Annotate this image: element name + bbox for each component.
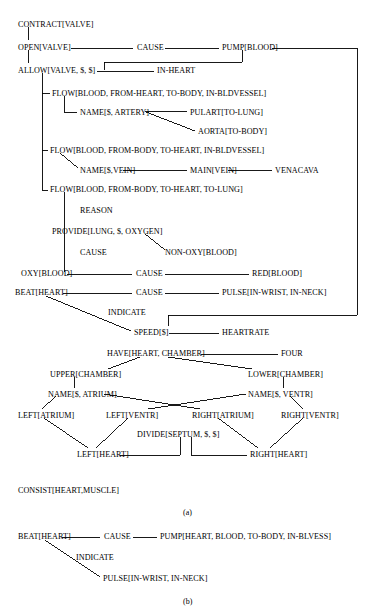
node-aorta: AORTA[TO-BODY] xyxy=(198,127,267,136)
node-lower-chamber: LOWER[CHAMBER] xyxy=(248,370,323,379)
node-provide-lung: PROVIDE[LUNG, $, OXYGEN] xyxy=(52,227,162,236)
node-b-cause: CAUSE xyxy=(104,532,131,541)
node-contract-valve: CONTRACT[VALVE] xyxy=(18,20,93,29)
node-b-beat-heart: BEAT[HEART] xyxy=(18,532,71,541)
node-divide-septum: DIVIDE[SEPTUM, $, $] xyxy=(137,430,219,439)
node-four: FOUR xyxy=(281,349,303,358)
node-pulart: PULART[TO-LUNG] xyxy=(190,108,263,117)
node-right-heart: RIGHT[HEART] xyxy=(250,450,307,459)
edge-leftatrium-leftheart xyxy=(44,418,88,448)
node-flow-heart-to-body: FLOW[BLOOD, FROM-HEART, TO-BODY, IN-BLDV… xyxy=(52,89,266,98)
node-name-ventr: NAME[$, VENTR] xyxy=(248,390,313,399)
caption-b: (b) xyxy=(183,597,192,606)
node-reason: REASON xyxy=(80,206,113,215)
edge-divide-rightheart xyxy=(191,437,247,455)
node-pump-blood: PUMP[BLOOD] xyxy=(222,43,278,52)
caption-a: (a) xyxy=(183,508,192,517)
node-pulse: PULSE[IN-WRIST, IN-NECK] xyxy=(222,288,326,297)
edge-leftventr-leftheart xyxy=(96,418,128,448)
node-cause-1: CAUSE xyxy=(137,43,164,52)
edge-pulart-nameartery xyxy=(145,111,187,112)
edge-provide-nonoxy xyxy=(145,234,165,250)
node-left-heart: LEFT[HEART] xyxy=(77,450,129,459)
edge-rightventr-rightheart xyxy=(270,418,303,448)
node-red-blood: RED[BLOOD] xyxy=(252,269,302,278)
node-speed: SPEED[$] xyxy=(134,328,169,337)
edge-flow2-namevein xyxy=(60,153,78,168)
node-beat-heart: BEAT[HEART] xyxy=(15,288,68,297)
node-b-indicate: INDICATE xyxy=(76,553,114,562)
node-name-artery: NAME[$, ARTERY] xyxy=(80,108,149,117)
node-name-vein: NAME[$,VEIN] xyxy=(80,166,135,175)
node-non-oxy-blood: NON-OXY[BLOOD] xyxy=(165,248,237,257)
edge-aorta-nameartery xyxy=(146,112,195,131)
node-left-atrium: LEFT[ATRIUM] xyxy=(18,411,74,420)
node-name-atrium: NAME[$, ATRIUM] xyxy=(48,390,117,399)
edge-have-lower xyxy=(168,357,252,369)
node-oxy-blood: OXY[BLOOD] xyxy=(21,269,72,278)
node-allow-valve: ALLOW[VALVE, $, $] xyxy=(18,66,95,75)
edge-divide-leftheart xyxy=(120,437,180,455)
node-indicate-a: INDICATE xyxy=(108,308,146,317)
node-cause-4: CAUSE xyxy=(136,288,163,297)
node-flow-body-to-heart-lung: FLOW[BLOOD, FROM-BODY, TO-HEART, TO-LUNG… xyxy=(50,185,243,194)
node-right-atrium: RIGHT[ATRIUM] xyxy=(192,411,254,420)
node-flow-body-to-heart-bldvessel: FLOW[BLOOD, FROM-BODY, TO-HEART, IN-BLDV… xyxy=(50,146,264,155)
node-consist-heart: CONSIST[HEART,MUSCLE] xyxy=(18,486,119,495)
edge-have-upper xyxy=(108,357,140,369)
node-open-valve: OPEN[VALVE] xyxy=(18,43,71,52)
node-right-ventr: RIGHT[VENTR] xyxy=(281,411,339,420)
node-left-ventr: LEFT[VENTR] xyxy=(106,411,158,420)
node-cause-2: CAUSE xyxy=(80,248,107,257)
edge-nameventr-leftventr xyxy=(148,394,246,409)
node-in-heart: IN-HEART xyxy=(157,66,195,75)
edge-nameatrium-rightatrium xyxy=(104,394,200,409)
edge-flow1-nameartery xyxy=(64,96,77,112)
node-b-pump: PUMP[HEART, BLOOD, TO-BODY, IN-BLVESS] xyxy=(160,532,331,541)
node-upper-chamber: UPPER[CHAMBER] xyxy=(50,370,121,379)
node-have-chamber: HAVE[HEART, CHAMBER] xyxy=(107,349,205,358)
edge-rightatrium-rightheart xyxy=(218,418,258,448)
node-venacava: VENACAVA xyxy=(275,166,319,175)
node-main-vein: MAIN[VEIN] xyxy=(190,166,237,175)
figure-page: CONTRACT[VALVE] OPEN[VALVE] CAUSE PUMP[B… xyxy=(0,0,385,614)
node-cause-3: CAUSE xyxy=(136,269,163,278)
node-b-pulse: PULSE[IN-WRIST, IN-NECK] xyxy=(103,574,207,583)
node-heartrate: HEARTRATE xyxy=(222,328,269,337)
